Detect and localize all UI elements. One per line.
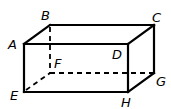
- vertex-label-G: G: [156, 74, 166, 89]
- vertex-label-F: F: [54, 56, 62, 71]
- vertex-label-D: D: [112, 47, 122, 62]
- edge-EF-hidden: [26, 73, 50, 90]
- vertex-label-E: E: [10, 88, 19, 103]
- vertex-label-A: A: [7, 37, 17, 52]
- edge-AB: [24, 25, 50, 44]
- edge-CD: [128, 25, 154, 44]
- prism-diagram: A B C D E F G H: [0, 0, 171, 109]
- vertex-label-C: C: [152, 10, 162, 25]
- vertex-label-B: B: [41, 8, 50, 23]
- edge-GH: [128, 73, 154, 92]
- vertex-label-H: H: [121, 95, 131, 109]
